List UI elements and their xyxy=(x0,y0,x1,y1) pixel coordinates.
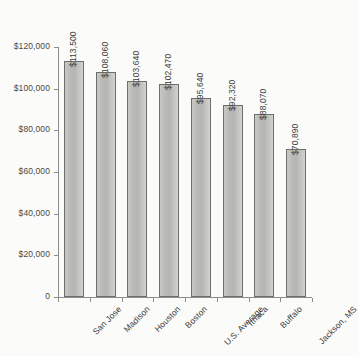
x-axis-tick xyxy=(122,298,123,302)
y-axis-tick-label: $80,000 xyxy=(0,124,50,134)
y-axis-tick-label: $120,000 xyxy=(0,41,50,51)
x-axis-tick xyxy=(280,298,281,302)
y-axis-tick xyxy=(54,172,58,173)
x-axis-tick xyxy=(249,298,250,302)
bar-value-label: $70,890 xyxy=(290,124,300,155)
y-axis-tick-label: $20,000 xyxy=(0,249,50,259)
y-axis-tick-label: $40,000 xyxy=(0,208,50,218)
x-axis-category-label: Jackson, MS xyxy=(317,304,359,346)
y-axis-tick xyxy=(54,255,58,256)
bar-value-label: $88,070 xyxy=(258,89,268,120)
bar-value-label: $108,060 xyxy=(100,42,110,78)
bar xyxy=(64,61,84,297)
x-axis-tick xyxy=(153,298,154,302)
y-axis-tick-label: $60,000 xyxy=(0,166,50,176)
bar xyxy=(159,84,179,297)
bar-value-label: $92,320 xyxy=(227,80,237,111)
x-axis-category-label: Ithaca xyxy=(246,304,270,328)
x-axis-category-label: Madison xyxy=(122,304,152,334)
x-axis-tick xyxy=(185,298,186,302)
y-axis-tick xyxy=(54,89,58,90)
bar-value-label: $103,640 xyxy=(131,51,141,87)
bar xyxy=(127,81,147,297)
y-axis-line xyxy=(58,47,59,298)
x-axis-tick xyxy=(58,298,59,302)
x-axis-tick xyxy=(312,298,313,302)
bar xyxy=(286,149,306,297)
y-axis-tick-label: 0 xyxy=(0,291,50,301)
x-axis-category-label: San Jose xyxy=(91,304,124,337)
x-axis-category-label: Boston xyxy=(183,304,209,330)
bar-value-label: $102,470 xyxy=(163,54,173,90)
y-axis-tick xyxy=(54,47,58,48)
y-axis-tick-label: $100,000 xyxy=(0,83,50,93)
y-axis-tick xyxy=(54,130,58,131)
x-axis-tick xyxy=(90,298,91,302)
x-axis-category-label: Houston xyxy=(152,304,182,334)
bar-value-label: $95,640 xyxy=(195,73,205,104)
bar-value-label: $113,500 xyxy=(68,31,78,67)
x-axis-category-label: Buffalo xyxy=(278,304,304,330)
bar xyxy=(191,98,211,297)
bar xyxy=(96,72,116,297)
x-axis-tick xyxy=(217,298,218,302)
y-axis-tick xyxy=(54,214,58,215)
bar xyxy=(254,114,274,297)
bar xyxy=(223,105,243,297)
